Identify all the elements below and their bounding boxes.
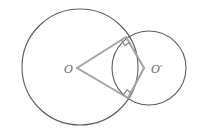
label-o-prime: O′ xyxy=(151,63,163,76)
two-circles-diagram: O O′ xyxy=(0,0,197,128)
label-o: O xyxy=(64,63,73,76)
segment-o-t1-oprime xyxy=(77,37,144,68)
segment-o-t2-oprime xyxy=(77,68,144,98)
